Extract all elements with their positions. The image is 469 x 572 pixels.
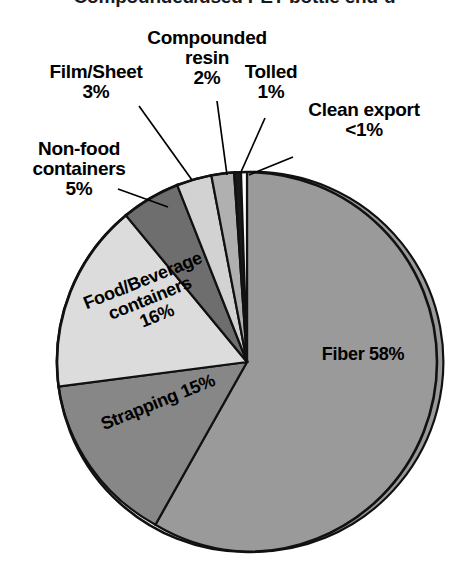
- label-fiber: Fiber 58%: [303, 345, 423, 364]
- label-film-sheet: Film/Sheet 3%: [34, 62, 158, 102]
- label-clean-export: Clean export <1%: [288, 100, 440, 140]
- leader-line-tolled: [241, 118, 265, 172]
- pie-chart-figure: Compounded/used PET bottle end-u: [0, 0, 469, 572]
- label-tolled: Tolled 1%: [228, 62, 314, 102]
- leader-line-compounded-resin: [217, 101, 227, 175]
- label-non-food-containers: Non-food containers 5%: [8, 139, 150, 199]
